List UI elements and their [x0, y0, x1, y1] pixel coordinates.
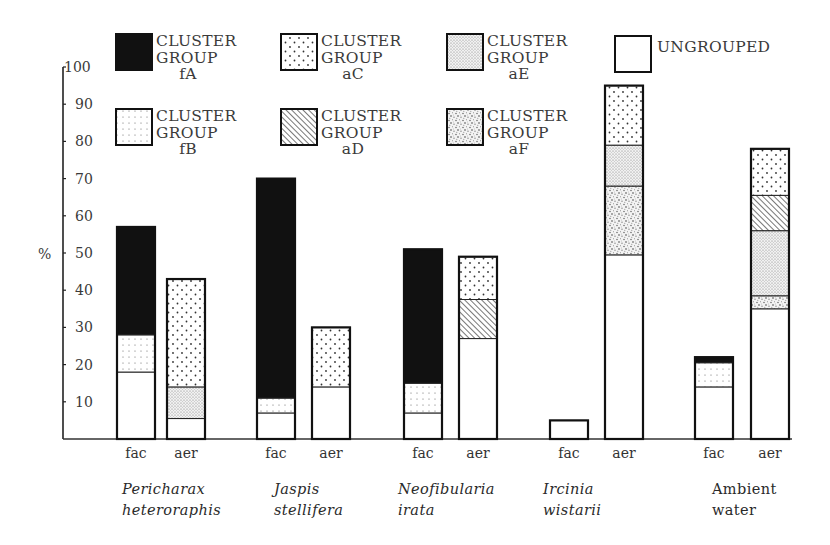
bar-segment-fB — [257, 398, 295, 413]
bar-segment-fA — [404, 249, 442, 383]
bar-segment-aC — [751, 149, 789, 196]
y-tick-label: 40 — [75, 282, 93, 298]
bar-segment-aD — [751, 195, 789, 230]
bar-segment-aC — [167, 279, 205, 387]
group-label: Neofibularia — [397, 481, 495, 497]
group-label: Pericharax — [121, 481, 205, 497]
bar-fac — [550, 420, 588, 439]
group-label: water — [712, 502, 756, 518]
bar-fac — [695, 357, 733, 439]
y-tick-label: 50 — [75, 245, 93, 261]
bar-segment-aC — [312, 327, 350, 387]
legend-text: fA — [179, 65, 197, 83]
y-tick-label: 30 — [75, 319, 93, 335]
bar-label: fac — [558, 445, 580, 461]
bar-segment-aE — [605, 145, 643, 186]
bar-segment-aF — [605, 186, 643, 255]
legend-item-fB: CLUSTERGROUPfB — [116, 107, 237, 158]
group-label: Jaspis — [271, 481, 320, 497]
x-axis-labels: facaerfacaerfacaerfacaerfacaerPericharax… — [121, 445, 782, 518]
bar-label: fac — [125, 445, 147, 461]
bar-label: aer — [174, 445, 198, 461]
legend-item-aC: CLUSTERGROUPaC — [281, 32, 402, 83]
legend-text: fB — [179, 140, 197, 158]
bar-segment-aE — [751, 231, 789, 296]
bar-fac — [404, 249, 442, 439]
bar-segment-ungrouped — [605, 255, 643, 439]
legend-item-ungrouped: UNGROUPED — [615, 36, 770, 72]
bar-label: aer — [319, 445, 343, 461]
bar-label: fac — [412, 445, 434, 461]
legend-swatch — [281, 34, 317, 70]
y-tick-label: 100 — [64, 59, 91, 75]
bar-segment-fB — [695, 363, 733, 387]
legend-swatch — [116, 34, 152, 70]
legend-text: aF — [509, 140, 530, 158]
bar-aer — [605, 86, 643, 439]
legend-text: aD — [342, 140, 364, 158]
y-tick-label: 70 — [75, 171, 93, 187]
bar-segment-ungrouped — [117, 372, 155, 439]
y-tick-label: 10 — [75, 394, 93, 410]
group-label: Ambient — [711, 481, 777, 497]
legend-text: CLUSTER — [487, 107, 568, 125]
bar-label: aer — [758, 445, 782, 461]
legend-swatch — [281, 109, 317, 145]
bar-segment-ungrouped — [695, 387, 733, 439]
legend-text: UNGROUPED — [657, 38, 770, 56]
bar-segment-aD — [459, 300, 497, 339]
bar-segment-fB — [404, 383, 442, 413]
bar-segment-fA — [117, 227, 155, 335]
legend-swatch — [615, 36, 651, 72]
bar-segment-aF — [751, 296, 789, 309]
bar-segment-aE — [167, 387, 205, 419]
bar-segment-ungrouped — [312, 387, 350, 439]
legend-text: aE — [508, 65, 529, 83]
legend-item-aD: CLUSTERGROUPaD — [281, 107, 402, 158]
bar-aer — [459, 257, 497, 439]
stacked-bar-chart: 102030405060708090100% CLUSTERGROUPfACLU… — [0, 0, 830, 545]
y-tick-label: 90 — [75, 96, 93, 112]
legend-swatch — [116, 109, 152, 145]
bar-segment-fB — [117, 335, 155, 372]
group-label: wistarii — [543, 502, 601, 518]
y-axis-label: % — [38, 246, 51, 262]
legend-text: CLUSTER — [321, 107, 402, 125]
bar-segment-ungrouped — [404, 413, 442, 439]
bar-segment-ungrouped — [167, 419, 205, 439]
bar-label: fac — [703, 445, 725, 461]
bar-aer — [167, 279, 205, 439]
legend-text: CLUSTER — [321, 32, 402, 50]
bar-fac — [117, 227, 155, 439]
legend-swatch — [447, 109, 483, 145]
bar-aer — [751, 149, 789, 439]
bar-segment-aC — [605, 86, 643, 146]
bar-label: aer — [466, 445, 490, 461]
bar-segment-aC — [459, 257, 497, 300]
bar-segment-fA — [257, 179, 295, 398]
bar-segment-ungrouped — [550, 420, 588, 439]
group-label: Ircinia — [542, 481, 594, 497]
legend-item-aF: CLUSTERGROUPaF — [447, 107, 568, 158]
legend-item-aE: CLUSTERGROUPaE — [447, 32, 568, 83]
group-label: irata — [398, 502, 435, 518]
legend-text: CLUSTER — [487, 32, 568, 50]
bar-aer — [312, 327, 350, 439]
legend: CLUSTERGROUPfACLUSTERGROUPaCCLUSTERGROUP… — [116, 32, 770, 158]
legend-item-fA: CLUSTERGROUPfA — [116, 32, 237, 83]
group-label: stellifera — [274, 502, 343, 518]
bar-label: fac — [265, 445, 287, 461]
group-label: heteroraphis — [122, 502, 221, 518]
y-tick-label: 80 — [75, 133, 93, 149]
y-tick-label: 20 — [75, 357, 93, 373]
bar-segment-ungrouped — [257, 413, 295, 439]
bar-segment-ungrouped — [459, 339, 497, 439]
bar-label: aer — [612, 445, 636, 461]
legend-text: CLUSTER — [156, 32, 237, 50]
legend-text: CLUSTER — [156, 107, 237, 125]
y-tick-label: 60 — [75, 208, 93, 224]
bar-segment-ungrouped — [751, 309, 789, 439]
legend-text: aC — [342, 65, 364, 83]
legend-swatch — [447, 34, 483, 70]
bar-fac — [257, 179, 295, 439]
